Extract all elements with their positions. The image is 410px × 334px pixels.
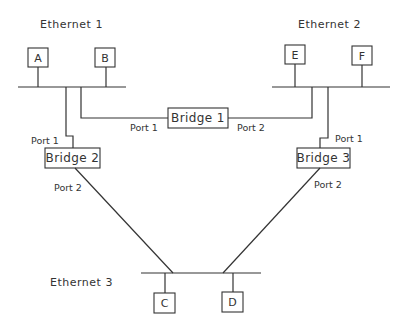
ethernet-3-label: Ethernet 3 (50, 276, 113, 289)
ethernet-2-segment: Ethernet 2 E F (272, 18, 390, 87)
bridge-1-port-2-label: Port 2 (237, 122, 265, 133)
bridge-3-label: Bridge 3 (297, 151, 351, 165)
host-c-label: C (161, 297, 169, 310)
bridge-3-port-1-link (320, 87, 328, 148)
bridge-1-port-1-link (81, 87, 168, 118)
host-a-label: A (34, 52, 42, 65)
host-d-label: D (228, 296, 236, 309)
host-e-label: E (292, 49, 299, 62)
bridge-3-port-1-label: Port 1 (335, 133, 363, 144)
ethernet-1-label: Ethernet 1 (40, 18, 103, 31)
bridge-1: Bridge 1 Port 1 Port 2 (81, 87, 312, 133)
bridge-2-label: Bridge 2 (46, 151, 100, 165)
network-diagram: Ethernet 1 A B Ethernet 2 E F Bridge 1 P… (0, 0, 410, 334)
bridge-2-port-2-link (75, 168, 173, 273)
ethernet-1-segment: Ethernet 1 A B (18, 18, 126, 87)
bridge-2-port-1-label: Port 1 (31, 135, 59, 146)
host-f-label: F (359, 50, 365, 63)
bridge-2: Bridge 2 Port 1 Port 2 (31, 87, 173, 273)
bridge-3-port-2-label: Port 2 (314, 179, 342, 190)
bridge-3: Bridge 3 Port 1 Port 2 (223, 87, 363, 273)
bridge-2-port-2-label: Port 2 (54, 182, 82, 193)
bridge-3-port-2-link (223, 168, 320, 273)
ethernet-3-segment: Ethernet 3 C D (50, 273, 261, 313)
bridge-1-port-1-label: Port 1 (130, 122, 158, 133)
bridge-1-label: Bridge 1 (171, 111, 225, 125)
bridge-1-port-2-link (228, 87, 312, 118)
bridge-2-port-1-link (66, 87, 73, 148)
host-b-label: B (101, 52, 109, 65)
ethernet-2-label: Ethernet 2 (298, 18, 361, 31)
